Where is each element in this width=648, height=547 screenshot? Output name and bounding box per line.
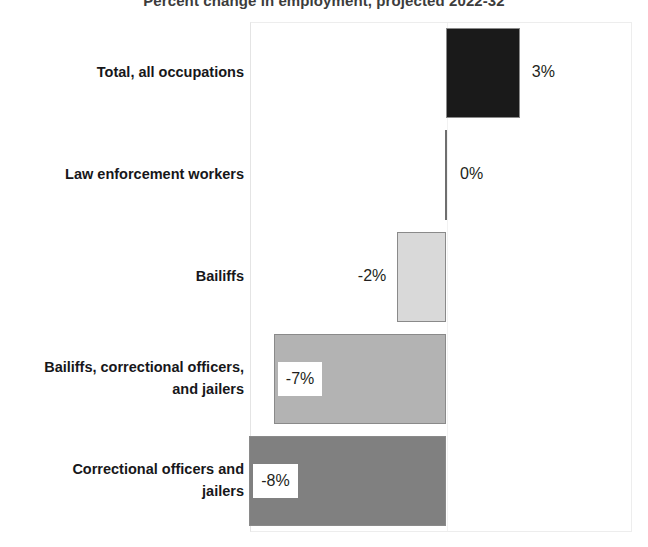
- category-label-4: Bailiffs, correctional officers,and jail…: [0, 357, 244, 401]
- category-label-line: and jailers: [0, 379, 244, 401]
- bar-value-label-3: -2%: [358, 260, 390, 292]
- chart-title: Percent change in employment, projected …: [0, 0, 648, 9]
- bar-2: [445, 130, 447, 220]
- category-label-line: Bailiffs, correctional officers,: [0, 357, 244, 379]
- category-label-5: Correctional officers andjailers: [0, 459, 244, 503]
- bar-1: [446, 28, 520, 118]
- category-label-3: Bailiffs: [0, 266, 244, 288]
- bar-value-label-4: -7%: [278, 362, 322, 396]
- bar-value-label-1: 3%: [526, 56, 555, 88]
- category-axis-labels: Total, all occupationsLaw enforcement wo…: [0, 22, 244, 532]
- category-label-line: Total, all occupations: [0, 62, 244, 84]
- category-label-line: Law enforcement workers: [0, 164, 244, 186]
- bar-value-label-5: -8%: [253, 464, 297, 498]
- category-label-line: jailers: [0, 481, 244, 503]
- category-label-line: Bailiffs: [0, 266, 244, 288]
- category-label-line: Correctional officers and: [0, 459, 244, 481]
- category-label-2: Law enforcement workers: [0, 164, 244, 186]
- bar-3: [397, 232, 446, 322]
- category-label-1: Total, all occupations: [0, 62, 244, 84]
- bar-value-label-2: 0%: [454, 158, 483, 190]
- bar-chart: Percent change in employment, projected …: [0, 0, 648, 547]
